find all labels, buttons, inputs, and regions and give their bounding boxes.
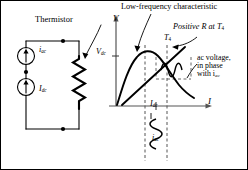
idc-subscript: dc [153, 102, 158, 108]
dc-source-subscript: dc [42, 87, 47, 93]
thermistor-zigzag [73, 56, 85, 109]
vdc-subscript: dc [101, 50, 106, 56]
junction-dot-top [61, 39, 65, 43]
dc-source-label: Idc [39, 85, 47, 94]
idc-axis-label: Idc [150, 100, 158, 109]
junction-dot-bottom [61, 127, 65, 131]
low-frequency-curve [117, 51, 194, 105]
thermistor-pointer-head [82, 53, 88, 59]
positive-r-subscript: 4 [221, 25, 224, 31]
positive-r-text: Positive R at T [173, 22, 221, 31]
positive-r-line [122, 47, 185, 105]
figure-container: Thermistor Low-frequency characteristic … [0, 0, 248, 170]
circuit-group [18, 25, 102, 131]
vdc-label: Vdc [96, 48, 106, 57]
t4-label: T4 [164, 34, 171, 43]
low-frequency-characteristic-label: Low-frequency characteristic [121, 3, 217, 12]
iac-waveform-label: iac [152, 134, 159, 143]
junction-dot-mid [24, 70, 28, 74]
graph-group [109, 14, 212, 161]
ac-voltage-note-line3-text: with i [197, 69, 215, 78]
x-axis-label: I [208, 97, 211, 106]
iac-wave-subscript: ac [154, 136, 159, 142]
dc-source-arrow-head [23, 80, 28, 85]
positiver-pointer-head [172, 45, 179, 50]
positiver-pointer-line [177, 37, 197, 46]
lowfreq-pointer-head [134, 46, 140, 53]
ac-source-arrow-head [23, 49, 28, 54]
y-axis-label: V [113, 14, 119, 23]
t4-subscript: 4 [169, 36, 172, 42]
positive-r-annotation: Positive R at T4 [173, 23, 224, 32]
ac-voltage-note-line3: with iac [197, 70, 231, 78]
ac-source-label: iac [39, 46, 46, 55]
acvoltage-pointer-line [187, 64, 197, 78]
thermistor-label: Thermistor [35, 15, 73, 24]
ac-voltage-note: ac voltage, in phase with iac [197, 54, 231, 79]
lowfreq-pointer-line [138, 14, 151, 47]
ac-source-subscript: ac [41, 48, 46, 54]
ac-voltage-note-subscript: ac [215, 74, 220, 79]
